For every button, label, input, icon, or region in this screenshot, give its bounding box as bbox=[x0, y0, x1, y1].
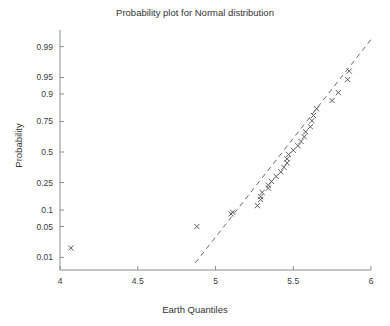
plot-canvas bbox=[0, 0, 390, 326]
data-point bbox=[266, 185, 271, 190]
data-point bbox=[298, 139, 303, 144]
data-point bbox=[302, 134, 307, 139]
data-point bbox=[284, 156, 289, 161]
data-point bbox=[311, 113, 316, 118]
axis-tick-marks bbox=[60, 47, 371, 270]
data-point bbox=[230, 210, 235, 215]
data-point-markers bbox=[68, 68, 352, 250]
data-point bbox=[274, 174, 279, 179]
data-point bbox=[258, 197, 263, 202]
data-point bbox=[266, 183, 271, 188]
data-point bbox=[278, 169, 283, 174]
reference-line bbox=[195, 39, 371, 262]
data-point bbox=[291, 148, 296, 153]
probability-plot-figure: Probability plot for Normal distribution… bbox=[0, 0, 390, 326]
data-point bbox=[281, 165, 286, 170]
data-point bbox=[330, 98, 335, 103]
data-point bbox=[308, 124, 313, 129]
data-point bbox=[194, 224, 199, 229]
data-point bbox=[269, 179, 274, 184]
data-point bbox=[314, 106, 319, 111]
data-point bbox=[68, 245, 73, 250]
data-point bbox=[295, 143, 300, 148]
data-point bbox=[260, 190, 265, 195]
data-point bbox=[255, 203, 260, 208]
data-point bbox=[345, 77, 350, 82]
data-point bbox=[309, 118, 314, 123]
data-point bbox=[303, 129, 308, 134]
data-point bbox=[258, 194, 263, 199]
data-point bbox=[286, 152, 291, 157]
axis-lines bbox=[60, 30, 371, 270]
data-point bbox=[347, 68, 352, 73]
data-point bbox=[336, 90, 341, 95]
